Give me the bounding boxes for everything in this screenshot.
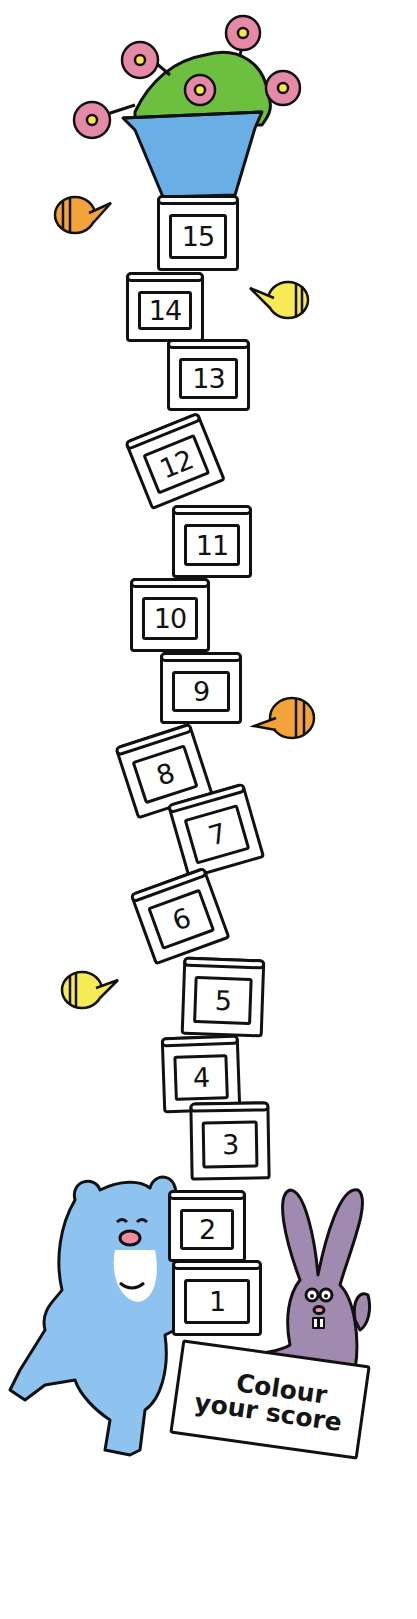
box-rim — [126, 272, 204, 282]
score-number: 7 — [184, 804, 251, 865]
score-number: 4 — [173, 1054, 229, 1101]
box-rim — [183, 957, 265, 970]
score-box-9[interactable]: 9 — [160, 652, 242, 724]
score-number: 5 — [193, 976, 253, 1025]
score-box-10[interactable]: 10 — [130, 578, 210, 652]
score-number: 3 — [202, 1121, 259, 1169]
box-rim — [157, 195, 239, 205]
score-number: 13 — [179, 358, 238, 399]
score-number: 2 — [180, 1209, 234, 1250]
score-box-14[interactable]: 14 — [126, 272, 204, 342]
score-number: 9 — [172, 671, 230, 712]
score-number: 14 — [138, 291, 192, 330]
score-box-11[interactable]: 11 — [172, 505, 252, 578]
score-box-6[interactable]: 6 — [129, 867, 230, 966]
box-rim — [130, 578, 210, 588]
box-rim — [168, 1190, 246, 1200]
score-number: 11 — [184, 524, 240, 566]
box-rim — [172, 1260, 262, 1270]
box-rim — [160, 652, 242, 662]
box-rim — [172, 505, 252, 515]
box-rim — [167, 339, 250, 349]
score-number: 8 — [131, 744, 198, 804]
score-box-5[interactable]: 5 — [181, 957, 266, 1038]
score-number: 12 — [142, 434, 210, 495]
score-box-12[interactable]: 12 — [124, 412, 226, 511]
score-number: 10 — [142, 597, 198, 640]
score-box-2[interactable]: 2 — [168, 1190, 246, 1262]
score-number: 6 — [147, 889, 215, 950]
box-rim — [189, 1101, 269, 1112]
score-number: 15 — [169, 214, 227, 259]
score-box-1[interactable]: 1 — [172, 1260, 262, 1336]
score-number: 1 — [184, 1279, 250, 1324]
score-box-3[interactable]: 3 — [189, 1101, 270, 1180]
score-box-13[interactable]: 13 — [167, 339, 250, 411]
box-rim — [161, 1035, 239, 1048]
score-box-15[interactable]: 15 — [157, 195, 239, 271]
